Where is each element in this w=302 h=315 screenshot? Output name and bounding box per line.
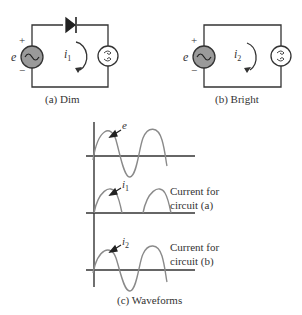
wire-b-bottom: [204, 66, 281, 87]
lamp-icon: [271, 46, 291, 66]
caption-a: (a) Dim: [45, 93, 80, 105]
source-label-a: e: [11, 51, 16, 63]
wire-a-bottom: [32, 66, 108, 87]
note-i1-line1: Current for: [170, 185, 219, 197]
diagram-canvas: [0, 0, 302, 315]
note-i1-line2: circuit (a): [170, 199, 213, 211]
current-arrow-b: [247, 43, 256, 70]
minus-sign-a: −: [19, 64, 25, 76]
caption-c: (c) Waveforms: [117, 294, 182, 306]
wave-label-i1: i1: [122, 178, 129, 195]
note-i2-line2: circuit (b): [170, 255, 214, 267]
lamp-icon: [98, 46, 118, 66]
wave-i1: [94, 189, 171, 213]
plus-sign-a: +: [19, 34, 25, 46]
arrowhead-icon: [244, 67, 251, 73]
minus-sign-b: −: [191, 64, 197, 76]
note-i2-line1: Current for: [170, 241, 219, 253]
circuit-b: [193, 25, 291, 87]
plus-sign-b: +: [191, 34, 197, 46]
pointer-arrow-icon: [110, 130, 121, 252]
current-label-b: i2: [234, 48, 241, 65]
wave-label-i2: i2: [122, 235, 129, 252]
source-label-b: e: [183, 51, 188, 63]
wave-e: [93, 129, 167, 177]
wave-i2: [93, 246, 167, 291]
caption-b: (b) Bright: [215, 93, 259, 105]
wire-b-top: [204, 25, 281, 46]
wire-a-top-left: [32, 25, 63, 46]
diode-icon: [66, 17, 76, 33]
current-arrow-a: [76, 42, 87, 70]
current-label-a: i1: [64, 48, 71, 65]
wave-label-e: e: [122, 119, 127, 131]
wire-a-top-right: [77, 25, 108, 46]
